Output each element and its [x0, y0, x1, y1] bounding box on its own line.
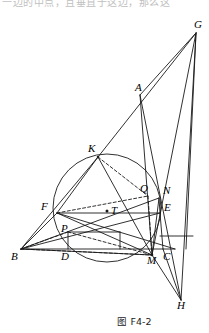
label-m: M: [146, 254, 157, 266]
label-f: F: [40, 200, 48, 212]
segment-n-e: [159, 198, 160, 213]
label-a: A: [134, 81, 142, 93]
label-p: P: [60, 222, 68, 234]
figure-caption-text: 图 F4-2: [57, 314, 151, 328]
label-h: H: [176, 299, 186, 311]
point-dot-t: [106, 210, 109, 213]
segment-k-m: [98, 157, 152, 255]
label-e: E: [163, 201, 171, 213]
segment-f-c: [57, 213, 175, 249]
segment-k-f: [57, 157, 98, 213]
segment-g-right-edge: [186, 33, 196, 249]
label-n: N: [162, 184, 171, 196]
segment-g-a: [140, 33, 196, 95]
segment-k-g: [98, 33, 196, 157]
circle-shape: [53, 154, 161, 262]
geometry-figure: G A K Q N F E T P B D M C H: [0, 8, 209, 313]
label-d: D: [60, 250, 69, 262]
segment-e-c: [160, 213, 163, 249]
label-t: T: [111, 204, 118, 216]
label-g: G: [194, 18, 202, 30]
point-dot-k: [97, 156, 100, 159]
segment-f-q-dashed: [57, 196, 148, 213]
segment-a-h: [140, 95, 181, 300]
label-b: B: [11, 250, 18, 262]
label-k: K: [87, 142, 96, 154]
label-c: C: [163, 250, 171, 262]
figure-caption: 图 F4-2: [0, 314, 209, 328]
segment-f-b: [21, 213, 57, 249]
figure-page: 一边的中点，且垂直于这边，那么这: [0, 0, 209, 333]
label-q: Q: [140, 182, 148, 194]
